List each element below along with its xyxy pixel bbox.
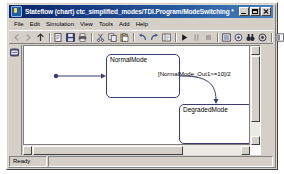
menu-item-file[interactable]: File xyxy=(11,19,27,30)
menu-item-help[interactable]: Help xyxy=(133,19,151,30)
transition-label-normal-to-degraded[interactable]: [NormalMode_Out1>=10]/2 xyxy=(158,70,231,78)
drawing-palette xyxy=(9,45,22,155)
maximize-button[interactable] xyxy=(250,7,260,16)
debug-icon[interactable] xyxy=(233,32,244,43)
title-bar[interactable]: Stateflow (chart) ctc_simplified_modes/T… xyxy=(9,5,273,18)
menu-item-simulation[interactable]: Simulation xyxy=(43,19,77,30)
up-to-parent-icon[interactable] xyxy=(35,32,46,43)
toolbar-separator xyxy=(49,33,51,42)
scroll-left-button[interactable] xyxy=(23,146,32,155)
stateflow-editor-window: Stateflow (chart) ctc_simplified_modes/T… xyxy=(0,0,284,174)
scroll-right-button[interactable] xyxy=(241,146,250,155)
scroll-down-button[interactable] xyxy=(251,136,260,145)
redo-icon[interactable] xyxy=(149,32,160,43)
new-model-icon[interactable] xyxy=(53,32,64,43)
window-controls xyxy=(239,7,271,16)
minimize-button[interactable] xyxy=(239,7,249,16)
close-button[interactable] xyxy=(261,7,271,16)
toolbar-separator xyxy=(217,33,219,42)
data-explorer-icon[interactable] xyxy=(275,32,284,43)
scroll-up-button[interactable] xyxy=(251,46,260,55)
toolbar-separator xyxy=(91,33,93,42)
menu-item-add[interactable]: Add xyxy=(116,19,133,30)
status-bar: Ready xyxy=(9,155,273,167)
toolbar-separator xyxy=(271,33,273,42)
normal-to-degraded-transition xyxy=(180,76,218,104)
chart-canvas[interactable]: NormalMode DegradedMode [NormalMode_Out1… xyxy=(23,45,261,155)
default-transition-arrow xyxy=(54,74,106,79)
build-icon[interactable] xyxy=(221,32,232,43)
menu-item-view[interactable]: View xyxy=(77,19,96,30)
toolbar xyxy=(9,30,273,44)
menu-item-edit[interactable]: Edit xyxy=(27,19,43,30)
stateflow-icon xyxy=(11,6,22,17)
state-label-normal-mode: NormalMode xyxy=(110,56,147,64)
vertical-scroll-thumb[interactable] xyxy=(251,56,260,122)
window-frame: Stateflow (chart) ctc_simplified_modes/T… xyxy=(6,2,278,170)
pause-simulation-icon[interactable] xyxy=(191,32,202,43)
menu-item-tools[interactable]: Tools xyxy=(96,19,116,30)
stop-simulation-icon[interactable] xyxy=(203,32,214,43)
horizontal-scrollbar[interactable] xyxy=(23,144,250,155)
start-simulation-icon[interactable] xyxy=(179,32,190,43)
state-label-degraded-mode: DegradedMode xyxy=(183,106,228,114)
state-degraded-mode[interactable]: DegradedMode xyxy=(179,104,253,144)
model-explorer-icon[interactable] xyxy=(161,32,172,43)
forward-icon[interactable] xyxy=(23,32,34,43)
toolbar-separator xyxy=(175,33,177,42)
print-icon[interactable] xyxy=(77,32,88,43)
status-secondary xyxy=(48,156,273,167)
paste-icon[interactable] xyxy=(119,32,130,43)
back-icon[interactable] xyxy=(11,32,22,43)
binoculars-icon[interactable] xyxy=(245,32,256,43)
horizontal-scroll-thumb[interactable] xyxy=(33,146,183,155)
status-message: Ready xyxy=(9,156,47,167)
save-icon[interactable] xyxy=(65,32,76,43)
copy-icon[interactable] xyxy=(107,32,118,43)
vertical-scrollbar[interactable] xyxy=(249,46,260,145)
document-area: NormalMode DegradedMode [NormalMode_Out1… xyxy=(9,45,273,155)
toolbar-separator xyxy=(133,33,135,42)
scrollbar-corner xyxy=(262,144,273,155)
undo-icon[interactable] xyxy=(137,32,148,43)
window-title: Stateflow (chart) ctc_simplified_modes/T… xyxy=(25,5,239,18)
cut-icon[interactable] xyxy=(95,32,106,43)
menu-bar: File Edit Simulation View Tools Add Help xyxy=(9,19,273,30)
coverage-target-icon[interactable] xyxy=(257,32,268,43)
